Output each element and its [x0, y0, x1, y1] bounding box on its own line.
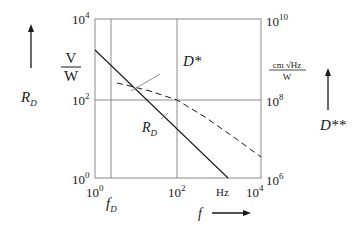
left-tick-mid: 102	[72, 91, 90, 108]
x-tick-2: 102	[168, 183, 186, 200]
series-rd-line	[95, 50, 228, 178]
left-axis-label: RD	[20, 89, 37, 108]
chart: D* RD 104 102 100 V W RD 1010 108 106 cm…	[0, 0, 362, 226]
left-tick-top: 104	[72, 10, 90, 27]
fd-label: fD	[106, 195, 117, 214]
x-tick-4: 104	[246, 183, 264, 200]
right-tick-mid: 108	[266, 92, 284, 109]
right-axis-label: D**	[319, 117, 346, 133]
left-unit-den: W	[64, 68, 79, 84]
x-tick-0: 100	[86, 183, 104, 200]
right-unit-den: W	[283, 72, 292, 82]
x-axis-label: f	[198, 206, 204, 221]
left-arrow-head-icon	[28, 24, 34, 32]
right-arrow-head-icon	[325, 68, 331, 76]
plot-frame	[95, 19, 261, 178]
series-dstar-line	[117, 83, 261, 157]
rd-curve-label: RD	[141, 120, 158, 138]
dstar-leader	[131, 74, 160, 91]
x-arrow-head-icon	[243, 210, 251, 216]
right-tick-bot: 106	[266, 171, 284, 188]
right-tick-top: 1010	[266, 12, 289, 29]
right-unit-num: cm √Hz	[273, 60, 302, 70]
dstar-curve-label: D*	[182, 53, 202, 69]
left-unit-num: V	[66, 50, 77, 66]
x-unit: Hz	[216, 186, 229, 198]
